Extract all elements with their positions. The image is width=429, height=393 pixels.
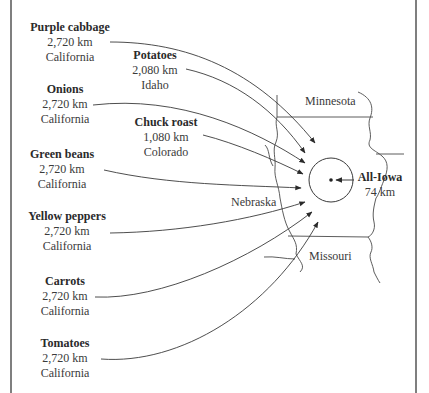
source-origin: California xyxy=(25,112,105,127)
source-name: Tomatoes xyxy=(25,336,105,351)
destination-distance: 74 km xyxy=(355,185,405,200)
source-distance: 2,720 km xyxy=(25,289,105,304)
state-label-minnesota: Minnesota xyxy=(305,94,356,109)
source-distance: 2,720 km xyxy=(25,97,105,112)
source-name: Yellow peppers xyxy=(18,209,116,224)
source-name: Onions xyxy=(25,82,105,97)
iowa-center-dot xyxy=(329,178,333,182)
destination-name: All-Iowa xyxy=(355,170,405,185)
source-chuck-roast: Chuck roast 1,080 km Colorado xyxy=(120,115,212,160)
arrow-chuck-roast xyxy=(203,135,303,174)
source-name: Purple cabbage xyxy=(20,20,120,35)
source-origin: Idaho xyxy=(115,78,195,93)
source-origin: California xyxy=(18,239,116,254)
source-distance: 2,080 km xyxy=(115,63,195,78)
source-origin: California xyxy=(20,177,104,192)
state-label-nebraska: Nebraska xyxy=(231,195,276,210)
source-tomatoes: Tomatoes 2,720 km California xyxy=(25,336,105,381)
source-distance: 2,720 km xyxy=(25,351,105,366)
source-potatoes: Potatoes 2,080 km Idaho xyxy=(115,48,195,93)
source-purple-cabbage: Purple cabbage 2,720 km California xyxy=(20,20,120,65)
source-distance: 2,720 km xyxy=(20,162,104,177)
source-distance: 2,720 km xyxy=(20,35,120,50)
source-name: Carrots xyxy=(25,274,105,289)
state-label-missouri: Missouri xyxy=(309,249,352,264)
destination-all-iowa: All-Iowa 74 km xyxy=(355,170,405,200)
source-origin: Colorado xyxy=(120,145,212,160)
source-name: Green beans xyxy=(20,147,104,162)
source-onions: Onions 2,720 km California xyxy=(25,82,105,127)
source-carrots: Carrots 2,720 km California xyxy=(25,274,105,319)
source-green-beans: Green beans 2,720 km California xyxy=(20,147,104,192)
source-distance: 1,080 km xyxy=(120,130,212,145)
source-yellow-peppers: Yellow peppers 2,720 km California xyxy=(18,209,116,254)
arrow-carrots xyxy=(95,212,312,297)
source-origin: California xyxy=(25,366,105,381)
arrow-tomatoes xyxy=(101,222,318,359)
source-distance: 2,720 km xyxy=(18,224,116,239)
source-origin: California xyxy=(20,50,120,65)
source-name: Potatoes xyxy=(115,48,195,63)
source-name: Chuck roast xyxy=(120,115,212,130)
arrow-green-beans xyxy=(104,170,301,188)
source-origin: California xyxy=(25,304,105,319)
diagram-frame: Purple cabbage 2,720 km California Potat… xyxy=(0,0,429,393)
